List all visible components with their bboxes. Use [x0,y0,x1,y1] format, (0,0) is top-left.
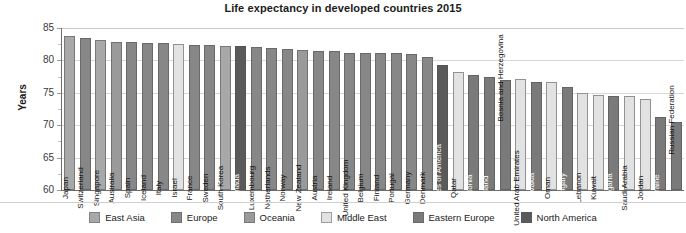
bar[interactable] [375,53,386,190]
legend-swatch [521,212,532,223]
bar[interactable] [671,122,682,190]
bar-slot[interactable]: Russian Federation [668,28,684,190]
bar-slot[interactable]: United Arab Emirates [513,28,529,190]
bar-slot[interactable]: Hungary [560,28,576,190]
bar[interactable] [142,43,153,190]
bar[interactable] [173,44,184,190]
legend-item[interactable]: Europe [158,212,231,223]
y-tick-label: 65 [28,153,54,163]
bar-slot[interactable]: Israel [171,28,187,190]
bar-slot[interactable]: Spain [124,28,140,190]
bar-slot[interactable]: Iceland [140,28,156,190]
bar-slot[interactable]: Finland [373,28,389,190]
bar-slot[interactable]: United States of America [435,28,451,190]
bar[interactable] [437,65,448,190]
bar[interactable] [546,82,557,190]
bar-slot[interactable]: Germany [404,28,420,190]
plot-area: JapanSwitzerlandSingaporeAustraliaSpainI… [61,28,684,191]
bar[interactable] [608,96,619,190]
bar-slot[interactable]: United Kingdom [342,28,358,190]
bar-slot[interactable]: South Korea [217,28,233,190]
bar[interactable] [531,82,542,190]
bar-slot[interactable]: Lebanon [575,28,591,190]
bar[interactable] [220,46,231,191]
bar[interactable] [126,42,137,190]
bar[interactable] [344,53,355,190]
bar-slot[interactable]: France [186,28,202,190]
bar-slot[interactable]: Ireland [326,28,342,190]
bar[interactable] [251,47,262,190]
bar-slot[interactable]: Netherlands [264,28,280,190]
bar-slot[interactable]: Slovakia [528,28,544,190]
bar[interactable] [111,42,122,190]
y-tick-label: 70 [28,120,54,130]
bar-slot[interactable]: New Zealand [295,28,311,190]
bar-slot[interactable]: Austria [311,28,327,190]
bar-slot[interactable]: Jordan [637,28,653,190]
chart-legend: East AsiaEuropeOceaniaMiddle EastEastern… [0,202,686,231]
bar[interactable] [360,53,371,190]
bar-slot[interactable]: Poland [482,28,498,190]
bar-slot[interactable]: Bosnia and Herzegovina [497,28,513,190]
bar[interactable] [80,38,91,190]
bar-slot[interactable]: Canada [233,28,249,190]
legend-item[interactable]: Eastern Europe [400,212,508,223]
legend-item[interactable]: Middle East [308,212,400,223]
bar-slot[interactable]: Belgium [357,28,373,190]
bar[interactable] [484,77,495,190]
bar[interactable] [189,45,200,190]
bar-slot[interactable]: Saudi Arabia [622,28,638,190]
bar[interactable] [453,72,464,190]
bar-slot[interactable]: Estonia [466,28,482,190]
bar-slot[interactable]: Portugal [388,28,404,190]
bar-slot[interactable]: Italy [155,28,171,190]
bar-slot[interactable]: Kuwait [591,28,607,190]
bar-slot[interactable]: Qatar [451,28,467,190]
bar-slot[interactable]: Oman [544,28,560,190]
bar-slot[interactable]: Luxembourg [249,28,265,190]
bar[interactable] [329,51,340,190]
bar-slot[interactable]: Denmark [420,28,436,190]
legend-item[interactable]: Oceania [231,212,308,223]
bar[interactable] [235,46,246,190]
bar[interactable] [562,87,573,190]
legend-swatch [244,212,255,223]
bar-slot[interactable]: Australia [109,28,125,190]
bar[interactable] [500,80,511,190]
bar[interactable] [64,36,75,190]
bar-slot[interactable]: Ukraine [653,28,669,190]
bar[interactable] [313,51,324,190]
bar[interactable] [297,50,308,190]
bar[interactable] [204,45,215,190]
bar[interactable] [624,96,635,190]
legend-label: North America [537,212,597,223]
bar[interactable] [95,40,106,190]
y-tick-mark [57,125,61,126]
bar[interactable] [515,79,526,190]
bar[interactable] [655,117,666,190]
bar[interactable] [468,75,479,190]
bar[interactable] [406,54,417,190]
bar[interactable] [577,93,588,190]
bar-slot[interactable]: Bulgaria [606,28,622,190]
legend-swatch [89,212,100,223]
bar[interactable] [422,57,433,190]
y-tick-mark [57,28,61,29]
bar-slot[interactable]: Japan [62,28,78,190]
bar-slot[interactable]: Singapore [93,28,109,190]
bar-slot[interactable]: Norway [280,28,296,190]
bar[interactable] [593,95,604,190]
bar-slot[interactable]: Sweden [202,28,218,190]
bar[interactable] [282,49,293,190]
bars-container: JapanSwitzerlandSingaporeAustraliaSpainI… [62,28,684,190]
bar[interactable] [640,99,651,190]
legend-label: East Asia [105,212,145,223]
bar[interactable] [158,43,169,190]
y-tick-mark [57,60,61,61]
bar[interactable] [266,48,277,190]
legend-swatch [413,212,424,223]
legend-item[interactable]: North America [508,212,610,223]
bar[interactable] [391,53,402,190]
legend-item[interactable]: East Asia [76,212,158,223]
bar-slot[interactable]: Switzerland [78,28,94,190]
